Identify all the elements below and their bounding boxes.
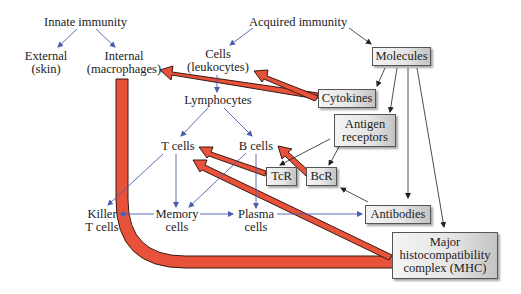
label-t-cells: T cells xyxy=(160,140,196,153)
label-plasma-line2: cells xyxy=(235,221,277,234)
box-cytokines: Cytokines xyxy=(318,89,376,108)
label-external: External (skin) xyxy=(23,50,69,76)
label-external-line2: (skin) xyxy=(23,63,69,76)
label-acquired-immunity: Acquired immunity xyxy=(249,16,347,29)
box-mhc: Major histocompatibility complex (MHC) xyxy=(392,232,498,279)
label-b-cells: B cells xyxy=(238,140,274,153)
label-lymphocytes: Lymphocytes xyxy=(184,94,252,107)
label-memory-cells: Memory cells xyxy=(154,208,200,234)
label-internal: Internal (macrophages) xyxy=(86,50,162,76)
label-memory-line2: cells xyxy=(154,221,200,234)
label-plasma-cells: Plasma cells xyxy=(235,208,277,234)
box-tcr: TcR xyxy=(266,167,297,186)
antigen-receptors-line2: receptors xyxy=(342,131,388,144)
box-antigen-receptors: Antigen receptors xyxy=(334,114,396,147)
box-molecules: Molecules xyxy=(372,47,431,66)
immunity-diagram: Innate immunity External (skin) Internal… xyxy=(0,0,521,294)
antigen-receptors-line1: Antigen xyxy=(345,118,385,131)
label-cells: Cells (leukocytes) xyxy=(186,48,250,74)
label-killer-line2: T cells xyxy=(84,221,120,234)
label-killer-t-cells: Killer T cells xyxy=(84,208,120,234)
mhc-line3: complex (MHC) xyxy=(404,262,487,275)
box-antibodies: Antibodies xyxy=(365,205,431,224)
label-cells-line2: (leukocytes) xyxy=(186,61,250,74)
label-internal-line2: (macrophages) xyxy=(86,63,162,76)
label-innate-immunity: Innate immunity xyxy=(44,16,127,29)
box-bcr: BcR xyxy=(306,167,337,186)
